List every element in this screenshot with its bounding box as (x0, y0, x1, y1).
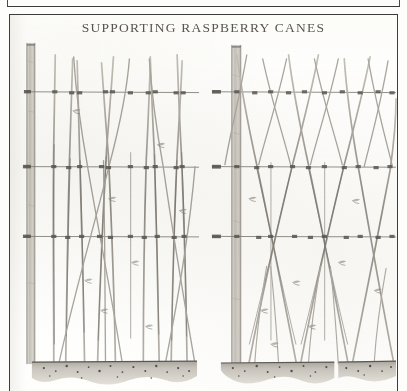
right-figure (212, 45, 396, 384)
canes-left (53, 55, 195, 364)
previous-plate-bottom-edge (7, 0, 400, 7)
scanned-page: SUPPORTING RASPBERRY CANES (0, 0, 407, 391)
canes-right (225, 55, 396, 364)
illustration-plate: SUPPORTING RASPBERRY CANES (9, 14, 398, 391)
soil-bed-left (32, 361, 197, 385)
left-figure (23, 43, 199, 385)
soil-bed-right (221, 361, 396, 383)
illustration-stage (10, 15, 397, 391)
wire-anchors-right (212, 90, 221, 238)
